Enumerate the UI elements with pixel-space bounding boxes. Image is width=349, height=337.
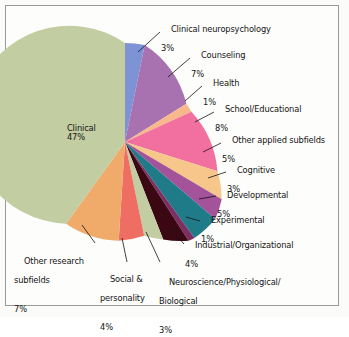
label-clinical-neuropsychology-name: Clinical neuropsychology bbox=[171, 24, 271, 34]
label-clinical-pct: 47% bbox=[67, 132, 85, 142]
label-neuroscience-line1: Neuroscience/Physiological/ bbox=[169, 277, 280, 287]
label-other-research-subfields: Other research subfields 7% bbox=[14, 247, 84, 333]
label-neuroscience-physiological-biological: Neuroscience/Physiological/ Biological 3… bbox=[159, 268, 280, 337]
label-social-personality-line1: Social & bbox=[110, 274, 143, 284]
label-neuroscience-pct: 3% bbox=[159, 326, 280, 336]
label-school-educational-name: School/Educational bbox=[225, 104, 301, 114]
label-clinical-name: Clinical bbox=[67, 123, 96, 133]
label-industrial-organizational-name: Industrial/Organizational bbox=[195, 240, 293, 250]
label-other-applied-subfields-name: Other applied subfields bbox=[232, 135, 325, 145]
label-social-personality-line2: personality bbox=[100, 294, 145, 304]
label-developmental-name: Developmental bbox=[227, 190, 288, 200]
label-cognitive-name: Cognitive bbox=[237, 165, 275, 175]
label-other-research-line2: subfields bbox=[14, 276, 84, 286]
label-experimental-name: Experimental bbox=[211, 215, 265, 225]
label-neuroscience-line2: Biological bbox=[159, 297, 280, 307]
label-other-research-line1: Other research bbox=[24, 256, 84, 266]
label-health-name: Health bbox=[213, 78, 239, 88]
label-social-personality: Social & personality 4% bbox=[100, 265, 145, 337]
label-social-personality-pct: 4% bbox=[100, 323, 145, 333]
label-counseling-name: Counseling bbox=[201, 50, 245, 60]
label-clinical: Clinical 47% bbox=[57, 114, 96, 152]
leader-social-personality bbox=[122, 238, 127, 262]
label-other-research-pct: 7% bbox=[14, 305, 84, 315]
